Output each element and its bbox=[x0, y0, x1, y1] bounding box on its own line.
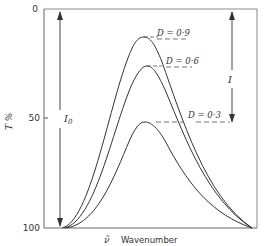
i0-label: I0 bbox=[63, 113, 73, 126]
plot-frame bbox=[44, 9, 257, 228]
absorbance-chart: 0 50 100 T % I0 I D = 0·9 D = 0·6 D = 0·… bbox=[0, 0, 265, 246]
y-axis-title: T % bbox=[4, 113, 14, 130]
label-d03: D = 0·3 bbox=[187, 110, 221, 120]
i0-arrow: I0 bbox=[57, 11, 73, 227]
x-axis: ν̃ Wavenumber bbox=[104, 235, 178, 245]
curve-d03 bbox=[66, 122, 252, 228]
y-axis: 0 50 100 T % bbox=[4, 4, 48, 233]
label-d06: D = 0·6 bbox=[165, 56, 199, 66]
x-axis-symbol: ν̃ bbox=[104, 235, 110, 245]
ytick-label-100: 100 bbox=[23, 223, 40, 233]
curve-d06 bbox=[64, 66, 252, 228]
i-arrow: I bbox=[227, 11, 235, 123]
i-label: I bbox=[227, 74, 233, 85]
ytick-label-0: 0 bbox=[32, 4, 38, 14]
label-d09: D = 0·9 bbox=[156, 28, 190, 38]
x-axis-title: Wavenumber bbox=[121, 235, 178, 245]
d-labels: D = 0·9 D = 0·6 D = 0·3 bbox=[144, 28, 230, 122]
ytick-label-50: 50 bbox=[29, 113, 41, 123]
